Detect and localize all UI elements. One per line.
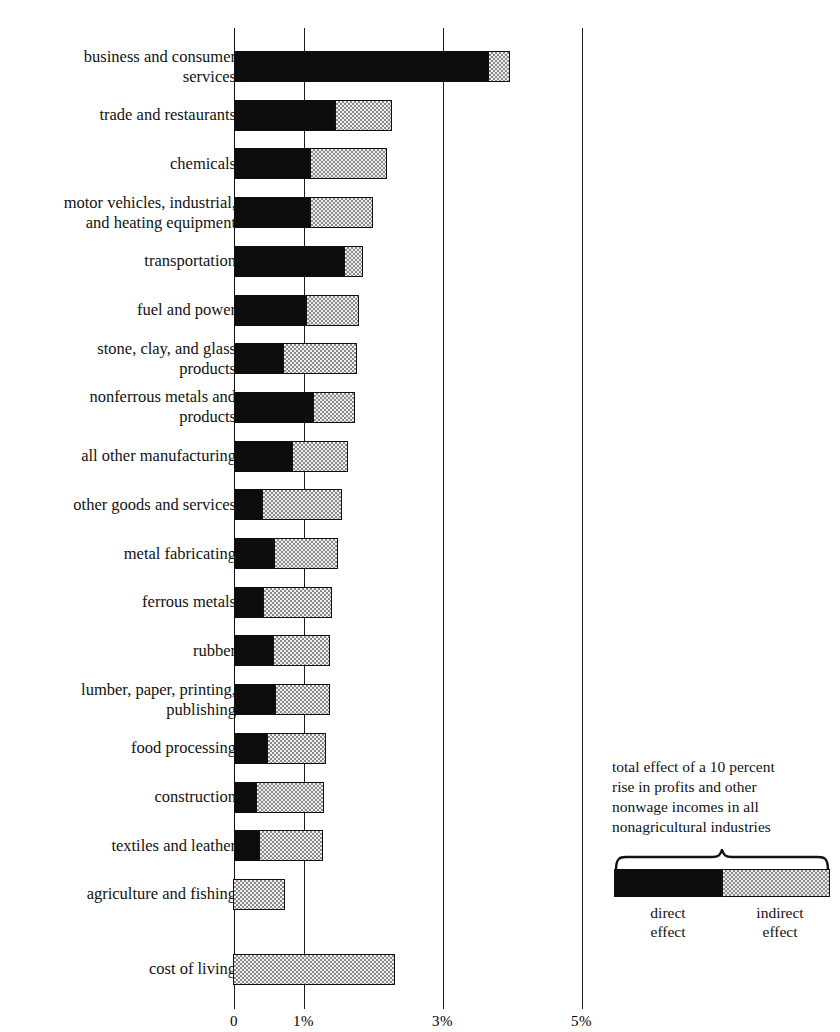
bar-segment-direct xyxy=(234,51,488,82)
category-label: nonferrous metals and products xyxy=(89,387,236,427)
legend-labels: direct effect indirect effect xyxy=(612,903,836,941)
tick-label-5%: 5% xyxy=(571,1013,592,1030)
category-label: motor vehicles, industrial, and heating … xyxy=(64,193,236,233)
bar-segment-direct xyxy=(234,782,256,813)
bar-segment-indirect xyxy=(267,733,326,764)
category-label: lumber, paper, printing, publishing xyxy=(81,680,236,720)
bar-segment-indirect xyxy=(233,954,395,985)
bar-segment-indirect xyxy=(259,830,323,861)
bar-segment-indirect xyxy=(274,538,338,569)
category-label: agriculture and fishing xyxy=(87,884,236,904)
bar-segment-direct xyxy=(234,295,306,326)
tick-mark-5% xyxy=(582,985,583,1009)
bar-row: all other manufacturing xyxy=(0,441,840,472)
bar-segment-direct xyxy=(234,246,344,277)
legend-direct-label: direct effect xyxy=(612,903,724,941)
legend-brace-icon xyxy=(612,849,836,871)
stacked-bar xyxy=(234,148,387,179)
category-label: textiles and leather xyxy=(111,836,236,856)
category-label: trade and restaurants xyxy=(99,105,236,125)
stacked-bar xyxy=(234,197,373,228)
category-label: metal fabricating xyxy=(124,544,236,564)
bar-row: ferrous metals xyxy=(0,587,840,618)
bar-segment-direct xyxy=(234,392,313,423)
bar-segment-direct xyxy=(234,830,259,861)
stacked-bar xyxy=(234,538,338,569)
legend-sample-bar xyxy=(614,869,830,897)
stacked-bar xyxy=(234,100,392,131)
bar-row: business and consumer services xyxy=(0,51,840,82)
category-label: construction xyxy=(154,787,236,807)
tick-mark-0 xyxy=(234,985,235,1009)
bar-row: fuel and power xyxy=(0,295,840,326)
bar-row: metal fabricating xyxy=(0,538,840,569)
bar-segment-direct xyxy=(234,197,310,228)
bar-segment-direct xyxy=(234,733,267,764)
bar-segment-indirect xyxy=(310,197,373,228)
stacked-bar xyxy=(234,587,332,618)
stacked-bar xyxy=(234,343,357,374)
bar-segment-indirect xyxy=(313,392,355,423)
stacked-bar xyxy=(234,392,355,423)
legend-caption: total effect of a 10 percent rise in pro… xyxy=(612,757,836,837)
bar-segment-direct xyxy=(234,343,283,374)
legend-indirect-label: indirect effect xyxy=(724,903,836,941)
legend-direct-swatch xyxy=(614,869,722,897)
bar-row: cost of living xyxy=(0,954,840,985)
bar-row: other goods and services xyxy=(0,489,840,520)
bar-segment-indirect xyxy=(275,684,330,715)
stacked-bar xyxy=(234,51,510,82)
stacked-bar xyxy=(234,954,396,985)
category-label: rubber xyxy=(193,641,236,661)
category-label: cost of living xyxy=(149,959,236,979)
category-label: all other manufacturing xyxy=(81,446,236,466)
bar-row: motor vehicles, industrial, and heating … xyxy=(0,197,840,228)
stacked-bar xyxy=(234,733,326,764)
category-label: other goods and services xyxy=(73,495,236,515)
bar-segment-indirect xyxy=(292,441,348,472)
bar-row: lumber, paper, printing, publishing xyxy=(0,684,840,715)
bar-row: transportation xyxy=(0,246,840,277)
bar-segment-indirect xyxy=(335,100,392,131)
bar-row: stone, clay, and glass products xyxy=(0,343,840,374)
tick-label-0: 0 xyxy=(230,1013,238,1030)
stacked-bar-chart: 01%3%5%business and consumer servicestra… xyxy=(0,0,840,1032)
bar-row: rubber xyxy=(0,635,840,666)
bar-segment-direct xyxy=(234,100,335,131)
tick-mark-1% xyxy=(304,985,305,1009)
category-label: business and consumer services xyxy=(84,47,236,87)
bar-segment-indirect xyxy=(273,635,330,666)
bar-segment-direct xyxy=(234,148,310,179)
legend-indirect-swatch xyxy=(722,869,830,897)
chart-legend: total effect of a 10 percent rise in pro… xyxy=(612,757,836,837)
bar-segment-indirect xyxy=(262,489,342,520)
bar-row: chemicals xyxy=(0,148,840,179)
category-label: fuel and power xyxy=(137,300,236,320)
tick-label-1%: 1% xyxy=(293,1013,314,1030)
bar-segment-direct xyxy=(234,635,273,666)
stacked-bar xyxy=(234,879,286,910)
bar-segment-indirect xyxy=(344,246,363,277)
bar-segment-indirect xyxy=(488,51,510,82)
stacked-bar xyxy=(234,830,323,861)
category-label: transportation xyxy=(144,251,236,271)
stacked-bar xyxy=(234,246,363,277)
bar-segment-direct xyxy=(234,441,292,472)
stacked-bar xyxy=(234,635,330,666)
category-label: chemicals xyxy=(170,154,236,174)
category-label: stone, clay, and glass products xyxy=(97,339,236,379)
stacked-bar xyxy=(234,782,324,813)
bar-segment-direct xyxy=(234,489,262,520)
tick-label-3%: 3% xyxy=(432,1013,453,1030)
bar-row: nonferrous metals and products xyxy=(0,392,840,423)
bar-segment-indirect xyxy=(263,587,332,618)
bar-segment-direct xyxy=(234,684,275,715)
stacked-bar xyxy=(234,441,348,472)
bar-segment-indirect xyxy=(283,343,357,374)
stacked-bar xyxy=(234,295,359,326)
bar-segment-indirect xyxy=(306,295,360,326)
category-label: ferrous metals xyxy=(142,592,236,612)
bar-row: trade and restaurants xyxy=(0,100,840,131)
tick-mark-3% xyxy=(443,985,444,1009)
stacked-bar xyxy=(234,684,330,715)
